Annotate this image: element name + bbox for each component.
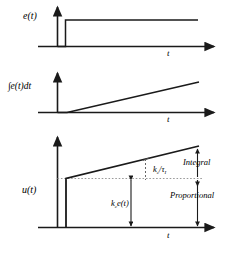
ramp-integral-signal [58, 82, 200, 113]
integral-panel: ∫e(t)dt t [7, 73, 214, 124]
output-panel-y-axis-label: u(t) [22, 184, 37, 196]
proportional-gain-label: kce(t) [111, 198, 129, 209]
pi-output-signal [66, 146, 199, 228]
integral-panel-y-axis-label: ∫e(t)dt [7, 81, 32, 92]
error-panel-x-axis-label: t [167, 48, 170, 58]
proportional-contribution-label: Proportional [169, 190, 215, 200]
error-panel-y-axis-label: e(t) [23, 10, 38, 22]
slope-label-sub-i: I [163, 170, 166, 175]
step-error-signal [58, 20, 199, 47]
slope-label: kc/τI [153, 164, 166, 175]
gain-label-tail: e(t) [117, 198, 129, 208]
figure-canvas: e(t) t ∫e(t)dt t [0, 0, 236, 253]
error-panel: e(t) t [23, 7, 214, 58]
pi-controller-figure: e(t) t ∫e(t)dt t [0, 0, 236, 253]
output-panel: u(t) t kc/τI Integral Proportional kce(t… [22, 137, 215, 240]
integral-contribution-label: Integral [182, 157, 211, 167]
integral-panel-x-axis-label: t [167, 114, 170, 124]
output-panel-x-axis-label: t [167, 230, 170, 240]
